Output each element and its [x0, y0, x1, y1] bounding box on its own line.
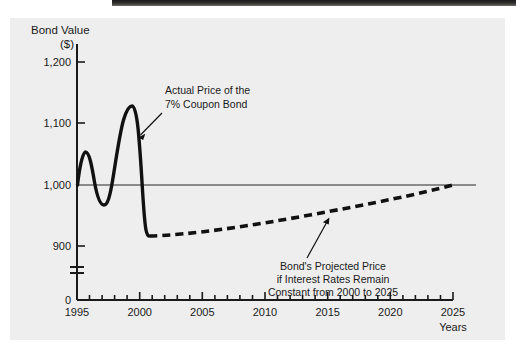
x-axis-title: Years — [439, 321, 467, 333]
x-tick-label-2010: 2010 — [253, 306, 277, 318]
projected-price-annotation: Bond's Projected Price if Interest Rates… — [268, 217, 398, 298]
y-axis-title-line1: Bond Value — [31, 24, 90, 36]
top-window-bar — [112, 0, 516, 6]
projected-annotation-line1: Bond's Projected Price — [280, 260, 386, 272]
actual-annotation-line1: Actual Price of the — [165, 84, 250, 96]
y-tick-label-1200: 1,200 — [43, 56, 71, 68]
x-tick-label-2025: 2025 — [441, 306, 465, 318]
x-tick-label-1995: 1995 — [65, 306, 89, 318]
y-tick-label-1100: 1,100 — [43, 117, 71, 129]
projected-annotation-arrow-line — [307, 220, 328, 258]
actual-price-annotation: Actual Price of the 7% Coupon Bond — [138, 84, 250, 140]
projected-annotation-line2: if Interest Rates Remain — [277, 273, 390, 285]
y-axis-title-line2: ($) — [60, 38, 74, 50]
bond-value-chart: Bond Value ($) 1,200 1,100 1,000 900 0 — [10, 18, 505, 340]
y-tick-label-0: 0 — [65, 294, 71, 306]
projected-annotation-arrowhead — [323, 217, 330, 224]
x-tick-label-2005: 2005 — [190, 306, 214, 318]
y-tick-label-1000: 1,000 — [43, 179, 71, 191]
y-tick-label-900: 900 — [53, 240, 71, 252]
actual-price-curve — [78, 106, 149, 236]
x-tick-label-2015: 2015 — [315, 306, 339, 318]
actual-annotation-arrow-line — [141, 113, 163, 135]
chart-panel: Bond Value ($) 1,200 1,100 1,000 900 0 — [10, 18, 505, 340]
actual-annotation-line2: 7% Coupon Bond — [165, 98, 247, 110]
x-tick-label-2000: 2000 — [127, 306, 151, 318]
projected-price-curve — [150, 185, 453, 236]
projected-annotation-line3: Constant from 2000 to 2025 — [268, 286, 398, 298]
x-tick-label-2020: 2020 — [378, 306, 402, 318]
